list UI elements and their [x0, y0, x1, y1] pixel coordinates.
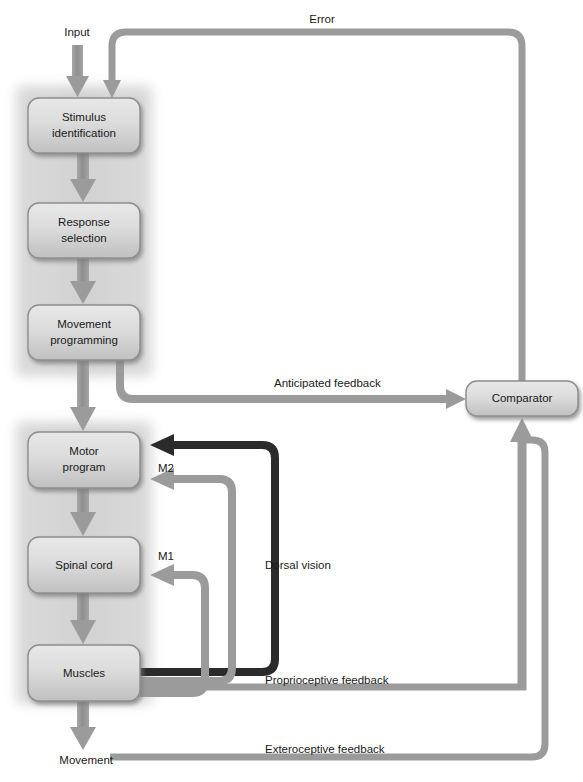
arrow-muscles-to-movement [70, 700, 96, 750]
box-label-line1: Muscles [63, 667, 105, 679]
box-movement-programming[interactable]: Movement programming [28, 305, 140, 360]
diagram-canvas: Stimulus identification Response selecti… [0, 0, 583, 782]
box-spinal-cord[interactable]: Spinal cord [28, 537, 140, 593]
box-response-selection[interactable]: Response selection [28, 203, 140, 258]
label-input: Input [64, 26, 90, 38]
box-label-line1: Comparator [492, 392, 553, 404]
label-m2: M2 [158, 462, 174, 474]
box-muscles[interactable]: Muscles [28, 645, 140, 701]
flow-diagram: Stimulus identification Response selecti… [0, 0, 583, 782]
box-label-line1: Motor [69, 445, 99, 457]
box-label-line2: program [63, 461, 106, 473]
label-movement: Movement [59, 754, 113, 766]
box-motor-program[interactable]: Motor program [28, 432, 140, 488]
box-label-line2: programming [50, 334, 118, 346]
label-anticipated-feedback: Anticipated feedback [274, 377, 381, 389]
label-error: Error [309, 13, 335, 25]
box-label-line2: selection [61, 232, 106, 244]
box-label-line1: Stimulus [62, 111, 106, 123]
edge-error [103, 32, 522, 381]
box-comparator[interactable]: Comparator [466, 381, 578, 416]
box-label-line1: Spinal cord [55, 559, 113, 571]
edge-exteroceptive-feedback [110, 440, 545, 757]
label-dorsal-vision: Dorsal vision [265, 559, 331, 571]
box-label-line1: Response [58, 216, 110, 228]
box-stimulus-identification[interactable]: Stimulus identification [28, 98, 140, 153]
box-label-line2: identification [52, 127, 116, 139]
edge-proprioceptive-feedback [140, 418, 534, 690]
label-m1: M1 [158, 550, 174, 562]
box-label-line1: Movement [57, 318, 111, 330]
label-exteroceptive-feedback: Exteroceptive feedback [265, 743, 385, 755]
label-proprioceptive-feedback: Proprioceptive feedback [265, 674, 389, 686]
